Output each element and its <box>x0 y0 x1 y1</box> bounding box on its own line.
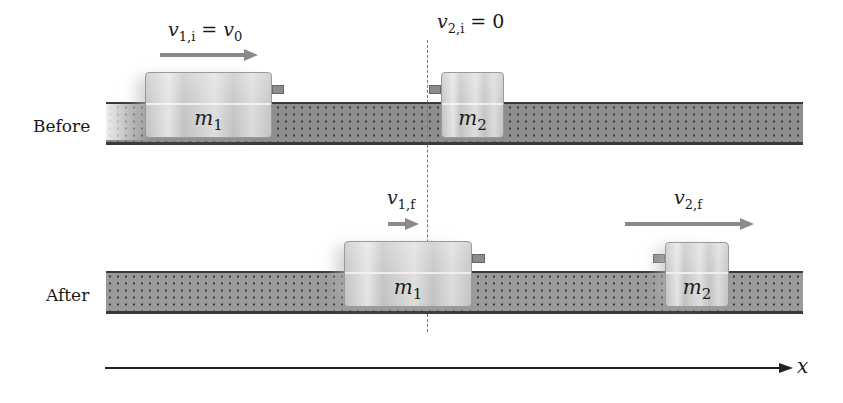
v1f-subscript: 1,f <box>398 197 415 212</box>
before-label: Before <box>33 116 90 136</box>
block-m2-before-label: m2 <box>442 106 503 134</box>
velocity-arrow-v1i <box>160 53 246 57</box>
v1i-subscript: 1,i <box>179 29 196 44</box>
block-m1-before-label: m1 <box>146 106 271 134</box>
v2i-subscript: 2,i <box>448 21 465 36</box>
v2i-value: 0 <box>492 10 504 32</box>
velocity-label-v2i: v2,i = 0 <box>437 10 504 36</box>
v2i-equals: = <box>464 10 492 32</box>
v2i-symbol: v <box>437 10 448 32</box>
velocity-arrow-v1f <box>388 222 406 226</box>
bumper-m1-before <box>272 85 284 94</box>
v1i-symbol: v <box>168 18 179 40</box>
velocity-label-v1i: v1,i = v0 <box>168 18 242 44</box>
block-seam <box>666 272 728 274</box>
block-seam <box>345 272 471 274</box>
block-m1-after: m1 <box>344 241 472 307</box>
v2f-subscript: 2,f <box>685 197 702 212</box>
bumper-m1-after <box>472 254 485 263</box>
v1f-symbol: v <box>387 186 398 208</box>
after-label: After <box>46 285 89 305</box>
block-m2-after-label: m2 <box>666 275 728 303</box>
block-m1-before: m1 <box>145 72 272 138</box>
x-axis-label: x <box>797 354 808 378</box>
velocity-arrow-v2f <box>625 222 741 226</box>
block-m2-after: m2 <box>665 242 729 307</box>
arrow-head-icon <box>405 218 419 230</box>
v1i-rhs-subscript: 0 <box>234 29 242 44</box>
bumper-m2-before <box>429 85 441 94</box>
velocity-label-v1f: v1,f <box>387 186 415 212</box>
block-m2-before: m2 <box>441 72 504 138</box>
block-seam <box>146 103 271 105</box>
arrow-head-icon <box>244 49 258 61</box>
bumper-m2-after <box>653 254 665 263</box>
block-seam <box>442 103 503 105</box>
x-axis-line <box>105 367 781 369</box>
arrow-head-icon <box>740 218 754 230</box>
velocity-label-v2f: v2,f <box>674 186 702 212</box>
block-m1-after-label: m1 <box>345 275 471 303</box>
v1i-rhs-symbol: v <box>223 18 234 40</box>
x-axis-arrow-icon <box>779 363 793 373</box>
v2f-symbol: v <box>674 186 685 208</box>
v1i-equals: = <box>195 18 223 40</box>
